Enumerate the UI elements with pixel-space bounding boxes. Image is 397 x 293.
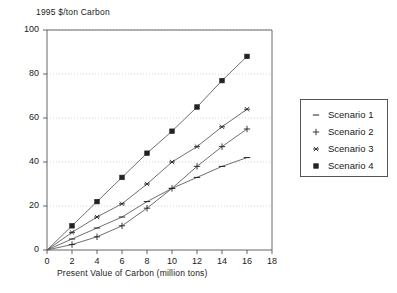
x-tick-label: 4	[88, 256, 106, 266]
legend-item-4[interactable]: Scenario 4	[306, 157, 373, 174]
data-point-filled-square-marker	[145, 151, 150, 156]
legend-asterisk-icon	[306, 142, 326, 156]
y-tick-label: 80	[15, 68, 39, 78]
series-4	[47, 54, 249, 250]
x-tick-label: 6	[113, 256, 131, 266]
data-point-plus-marker	[313, 128, 319, 134]
data-point-plus-marker	[244, 126, 250, 132]
legend-item-2[interactable]: Scenario 2	[306, 123, 373, 140]
y-tick-label: 40	[15, 156, 39, 166]
y-tick-label: 0	[15, 244, 39, 254]
data-point-asterisk-marker	[244, 107, 250, 111]
series-line	[47, 109, 247, 250]
legend-item-label: Scenario 1	[328, 109, 373, 120]
data-point-plus-marker	[69, 241, 75, 247]
data-point-filled-square-marker	[314, 163, 319, 168]
y-tick-label: 100	[15, 24, 39, 34]
data-point-filled-square-marker	[245, 54, 250, 59]
series-3	[47, 107, 250, 250]
x-tick-label: 14	[213, 256, 231, 266]
data-point-asterisk-marker	[119, 202, 125, 206]
y-tick-label: 20	[15, 200, 39, 210]
data-point-asterisk-marker	[219, 125, 225, 129]
legend-item-label: Scenario 4	[328, 160, 373, 171]
x-tick-label: 16	[238, 256, 256, 266]
legend-dash-icon	[306, 108, 326, 122]
data-point-filled-square-marker	[70, 224, 75, 229]
data-point-filled-square-marker	[120, 175, 125, 180]
y-axis-title: 1995 $/ton Carbon	[36, 7, 110, 17]
series-1	[47, 158, 250, 250]
y-tick-label: 60	[15, 112, 39, 122]
x-tick-label: 10	[163, 256, 181, 266]
data-point-plus-marker	[119, 223, 125, 229]
legend-item-label: Scenario 3	[328, 143, 373, 154]
x-axis-title: Present Value of Carbon (million tons)	[57, 268, 208, 278]
data-point-asterisk-marker	[169, 160, 175, 164]
data-point-asterisk-marker	[69, 230, 75, 234]
x-tick-label: 2	[63, 256, 81, 266]
series-line	[47, 129, 247, 250]
x-tick-label: 18	[263, 256, 281, 266]
data-point-asterisk-marker	[144, 182, 150, 186]
legend-item-3[interactable]: Scenario 3	[306, 140, 373, 157]
data-point-asterisk-marker	[313, 146, 319, 150]
data-point-asterisk-marker	[194, 144, 200, 148]
series-2	[47, 126, 250, 250]
data-point-filled-square-marker	[170, 129, 175, 134]
x-tick-label: 0	[38, 256, 56, 266]
data-point-filled-square-marker	[95, 199, 100, 204]
x-tick-label: 12	[188, 256, 206, 266]
chart-legend: Scenario 1Scenario 2Scenario 3Scenario 4	[300, 99, 388, 177]
data-point-filled-square-marker	[220, 78, 225, 83]
legend-item-label: Scenario 2	[328, 126, 373, 137]
chart-figure: 1995 $/ton Carbon Present Value of Carbo…	[0, 0, 397, 293]
x-tick-label: 8	[138, 256, 156, 266]
data-point-asterisk-marker	[94, 215, 100, 219]
data-point-filled-square-marker	[195, 105, 200, 110]
legend-plus-icon	[306, 125, 326, 139]
series-line	[47, 158, 247, 250]
legend-item-1[interactable]: Scenario 1	[306, 106, 373, 123]
data-point-plus-marker	[94, 234, 100, 240]
legend-filled-square-icon	[306, 159, 326, 173]
